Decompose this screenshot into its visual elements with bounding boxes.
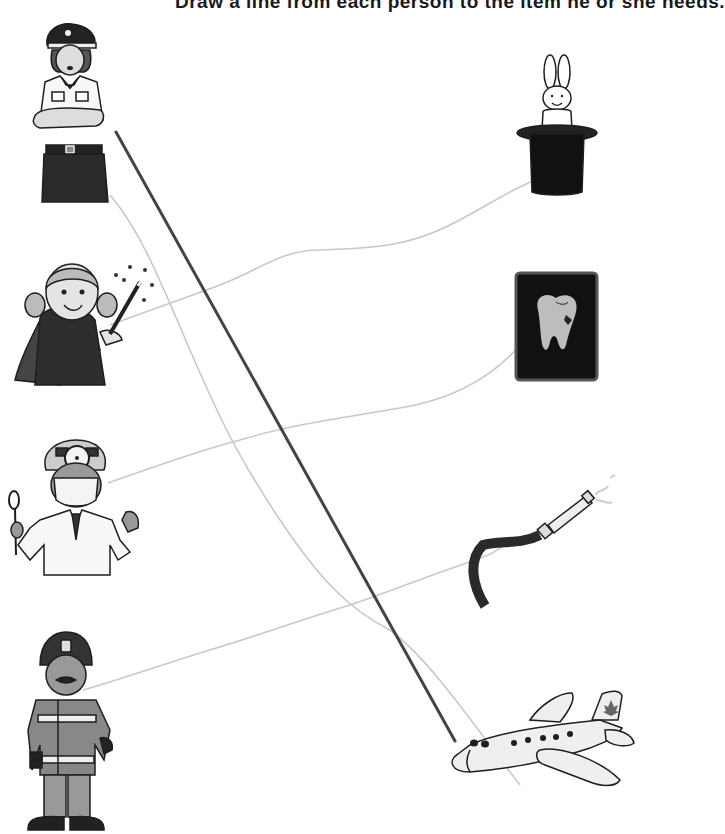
hose-icon [473,535,540,606]
fire-hose-item[interactable] [473,475,615,606]
guide-line-firefighter [83,540,510,690]
firefighter-figure[interactable] [28,632,112,830]
magician-figure[interactable] [15,264,154,385]
water-spray-icon [595,475,615,503]
guide-lines [83,180,535,785]
rabbit-in-hat-item[interactable] [517,55,597,195]
pilot-figure[interactable] [33,24,108,202]
answer-line-pilot-to-airplane [116,132,455,741]
tooth-xray-item[interactable] [516,273,597,380]
guide-line-magician [110,180,535,325]
pilot-cap-icon [47,24,95,45]
airplane-item[interactable] [452,691,634,785]
doctor-figure[interactable] [9,440,138,575]
dental-mirror-icon [9,491,19,509]
guide-line-doctor [108,345,520,483]
sparkle-icons [114,265,154,302]
